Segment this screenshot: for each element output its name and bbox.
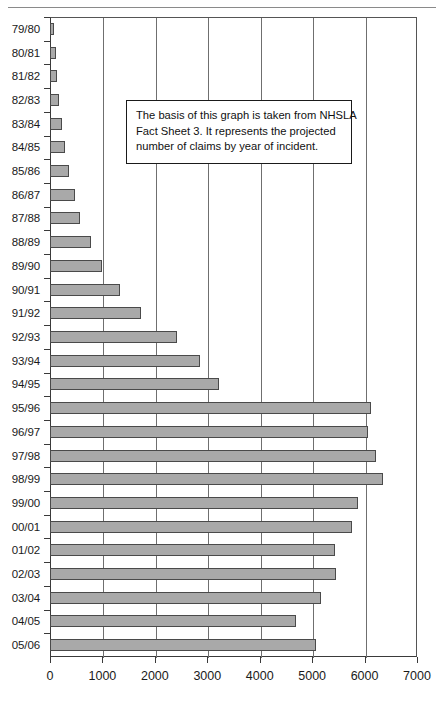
y-axis-label-85-86: 85/86 <box>12 165 40 177</box>
x-axis-label-7000: 7000 <box>403 669 431 683</box>
y-axis-label-98-99: 98/99 <box>12 473 40 485</box>
bar-row <box>50 301 417 325</box>
bar-83-84 <box>50 118 62 130</box>
y-axis-label-84-85: 84/85 <box>12 141 40 153</box>
y-axis-label-87-88: 87/88 <box>12 212 40 224</box>
bar-row <box>50 562 417 586</box>
bar-02-03 <box>50 568 336 580</box>
x-axis-tick-7000 <box>417 657 418 663</box>
bar-80-81 <box>50 47 56 59</box>
y-axis-tick <box>44 136 50 137</box>
bar-87-88 <box>50 212 80 224</box>
bar-row <box>50 17 417 41</box>
bar-row <box>50 467 417 491</box>
bar-row <box>50 325 417 349</box>
annotation-line-2: Fact Sheet 3. It represents the projecte… <box>136 124 342 140</box>
y-axis-tick <box>44 610 50 611</box>
y-axis-tick <box>44 230 50 231</box>
y-axis-tick <box>44 41 50 42</box>
bar-row <box>50 373 417 397</box>
y-axis-tick <box>44 64 50 65</box>
x-axis-label-6000: 6000 <box>351 669 379 683</box>
bar-79-80 <box>50 23 54 35</box>
bar-03-04 <box>50 592 321 604</box>
bar-96-97 <box>50 426 368 438</box>
y-axis-tick <box>44 515 50 516</box>
bar-row <box>50 515 417 539</box>
y-axis-label-91-92: 91/92 <box>12 307 40 319</box>
y-axis-tick <box>44 207 50 208</box>
bar-row <box>50 254 417 278</box>
y-axis-label-82-83: 82/83 <box>12 94 40 106</box>
y-axis-tick <box>44 183 50 184</box>
bar-row <box>50 41 417 65</box>
bar-92-93 <box>50 331 177 343</box>
bar-row <box>50 183 417 207</box>
bar-row <box>50 610 417 634</box>
y-axis-label-02-03: 02/03 <box>12 568 40 580</box>
x-axis-tick-3000 <box>207 657 208 663</box>
bar-93-94 <box>50 355 200 367</box>
y-axis-tick <box>44 373 50 374</box>
y-axis-label-86-87: 86/87 <box>12 189 40 201</box>
bar-row <box>50 491 417 515</box>
annotation-line-1: The basis of this graph is taken from NH… <box>136 108 342 124</box>
bar-row <box>50 278 417 302</box>
y-axis-tick <box>44 467 50 468</box>
bar-85-86 <box>50 165 69 177</box>
bar-82-83 <box>50 94 59 106</box>
y-axis-tick <box>44 420 50 421</box>
y-axis-tick <box>44 159 50 160</box>
y-axis-label-99-00: 99/00 <box>12 497 40 509</box>
bar-row <box>50 230 417 254</box>
y-axis-label-94-95: 94/95 <box>12 378 40 390</box>
bar-95-96 <box>50 402 371 414</box>
y-axis-label-01-02: 01/02 <box>12 544 40 556</box>
y-axis-label-79-80: 79/80 <box>12 23 40 35</box>
x-axis-tick-4000 <box>260 657 261 663</box>
bar-row <box>50 349 417 373</box>
bar-94-95 <box>50 378 219 390</box>
bar-86-87 <box>50 189 75 201</box>
y-axis-tick <box>44 301 50 302</box>
bar-91-92 <box>50 307 141 319</box>
y-axis-tick <box>44 538 50 539</box>
bar-88-89 <box>50 236 91 248</box>
y-axis-tick <box>44 491 50 492</box>
y-axis-category-labels: 79/8080/8181/8282/8383/8484/8585/8686/87… <box>0 17 50 657</box>
bar-row <box>50 586 417 610</box>
y-axis-label-93-94: 93/94 <box>12 355 40 367</box>
y-axis-tick <box>44 254 50 255</box>
bar-row <box>50 538 417 562</box>
y-axis-label-96-97: 96/97 <box>12 426 40 438</box>
y-axis-label-04-05: 04/05 <box>12 615 40 627</box>
annotation-line-3: number of claims by year of incident. <box>136 139 342 155</box>
x-axis-tick-6000 <box>365 657 366 663</box>
y-axis-tick <box>44 112 50 113</box>
y-axis-label-05-06: 05/06 <box>12 639 40 651</box>
y-axis-tick <box>44 633 50 634</box>
x-axis-value-labels: 01000200030004000500060007000 <box>0 657 442 697</box>
bar-84-85 <box>50 141 65 153</box>
y-axis-label-80-81: 80/81 <box>12 47 40 59</box>
x-axis-tick-1000 <box>102 657 103 663</box>
y-axis-label-92-93: 92/93 <box>12 331 40 343</box>
bar-00-01 <box>50 521 352 533</box>
claims-by-year-bar-chart: 79/8080/8181/8282/8383/8484/8585/8686/87… <box>0 0 442 704</box>
bar-81-82 <box>50 70 57 82</box>
y-axis-tick <box>44 278 50 279</box>
x-axis-label-3000: 3000 <box>193 669 221 683</box>
y-axis-tick <box>44 325 50 326</box>
y-axis-label-89-90: 89/90 <box>12 260 40 272</box>
bar-row <box>50 444 417 468</box>
bar-row <box>50 420 417 444</box>
x-axis-label-1000: 1000 <box>89 669 117 683</box>
y-axis-label-00-01: 00/01 <box>12 521 40 533</box>
y-axis-tick <box>44 88 50 89</box>
x-axis-tick-2000 <box>155 657 156 663</box>
x-axis-label-4000: 4000 <box>246 669 274 683</box>
y-axis-label-83-84: 83/84 <box>12 118 40 130</box>
bar-99-00 <box>50 497 358 509</box>
y-axis-label-90-91: 90/91 <box>12 284 40 296</box>
bar-98-99 <box>50 473 383 485</box>
